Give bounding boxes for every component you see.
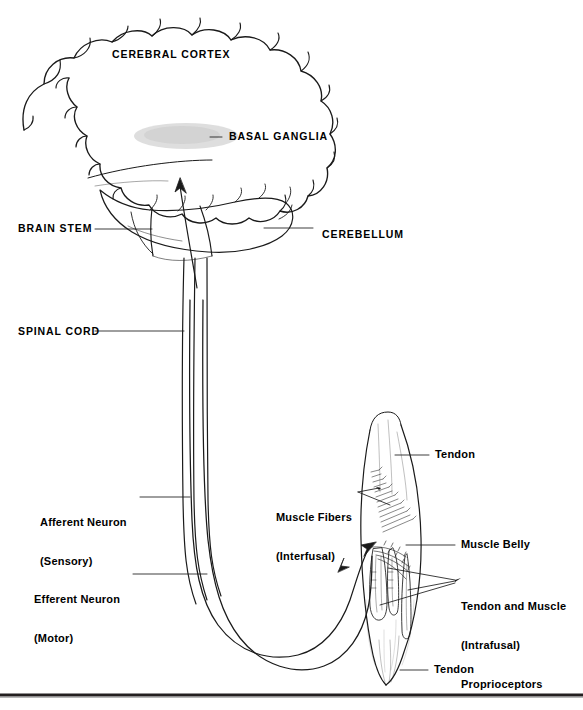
label-muscle-fibers: Muscle Fibers (Interfusal) (276, 485, 352, 576)
label-muscle-belly: Muscle Belly (461, 538, 530, 551)
label-proprioceptors-line1: Tendon and Muscle (461, 600, 566, 613)
label-spinal-cord: SPINAL CORD (18, 325, 100, 337)
label-efferent-neuron-line2: (Motor) (34, 632, 120, 645)
label-muscle-fibers-line1: Muscle Fibers (276, 511, 352, 524)
label-brain-stem: BRAIN STEM (18, 222, 92, 234)
label-efferent-neuron: Efferent Neuron (Motor) (34, 567, 120, 658)
label-tendon-top: Tendon (435, 448, 475, 461)
label-cerebellum: CEREBELLUM (322, 228, 404, 240)
label-muscle-fibers-line2: (Interfusal) (276, 550, 352, 563)
label-proprioceptors: Tendon and Muscle (Intrafusal) Proprioce… (461, 574, 566, 704)
label-afferent-neuron-line2: (Sensory) (40, 555, 127, 568)
label-efferent-neuron-line1: Efferent Neuron (34, 593, 120, 606)
basal-ganglia-shading (134, 123, 238, 149)
label-cerebral-cortex: CEREBRAL CORTEX (112, 48, 230, 60)
label-afferent-neuron-line1: Afferent Neuron (40, 516, 127, 529)
label-proprioceptors-line3: Proprioceptors (461, 678, 566, 691)
label-proprioceptors-line2: (Intrafusal) (461, 639, 566, 652)
label-basal-ganglia: BASAL GANGLIA (229, 130, 328, 142)
